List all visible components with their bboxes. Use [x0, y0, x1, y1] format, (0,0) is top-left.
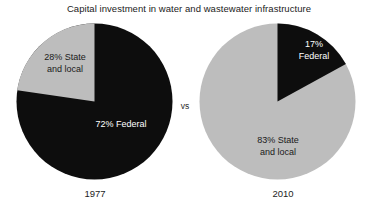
pie-chart-1977: 28% State and local 72% Federal 1977 [0, 0, 190, 210]
chart-figure: Capital investment in water and wastewat… [0, 0, 378, 210]
pie-slices-1977 [16, 23, 173, 180]
pie-chart-2010: 17% Federal 83% State and local 2010 [188, 0, 378, 210]
pie-year-label-1977: 1977 [0, 188, 190, 200]
pie-slices-2010 [199, 23, 356, 180]
pie-year-label-2010: 2010 [188, 188, 378, 200]
pie-slice-1977-state-and-local [17, 23, 94, 101]
